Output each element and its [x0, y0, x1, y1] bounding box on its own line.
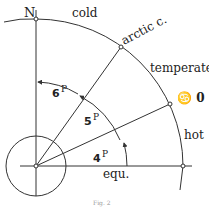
equator-point: [181, 164, 185, 168]
svg-text:4: 4: [93, 152, 101, 165]
svg-text:P: P: [93, 112, 99, 122]
tropic-point: [168, 102, 172, 106]
equator-label: equ.: [103, 167, 129, 181]
arctic-label: arctic c.: [119, 12, 169, 48]
angle-label-6p: 6 P: [52, 84, 67, 100]
center-point: [34, 164, 38, 168]
zones-diagram: N cold arctic c. temperate ♋ 0 hot equ. …: [0, 0, 209, 208]
figure-caption: Fig. 2: [93, 199, 111, 207]
svg-text:P: P: [61, 84, 67, 94]
svg-text:5: 5: [84, 115, 92, 128]
hot-label: hot: [184, 128, 204, 142]
temperate-label: temperate: [150, 61, 209, 75]
arctic-point: [119, 45, 123, 49]
angle-label-4p: 4 P: [93, 149, 108, 165]
svg-text:6: 6: [52, 87, 60, 100]
cold-label: cold: [72, 6, 98, 20]
angle-arc-4p: [124, 143, 127, 166]
svg-text:P: P: [102, 149, 108, 159]
pole-label: N: [24, 5, 35, 20]
tropic-label: ♋ 0: [177, 91, 205, 105]
arctic-radius: [36, 47, 121, 166]
angle-label-5p: 5 P: [84, 112, 99, 128]
